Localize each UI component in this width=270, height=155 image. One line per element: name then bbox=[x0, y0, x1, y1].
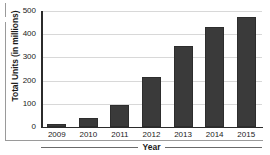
bar-2014 bbox=[205, 27, 224, 127]
x-title-rule-right bbox=[165, 147, 262, 148]
frame-top-tick bbox=[5, 3, 6, 17]
bar-2013 bbox=[174, 46, 193, 127]
frame-left-rule bbox=[5, 22, 6, 141]
y-tick-label: 0 bbox=[8, 123, 36, 131]
bar-2010 bbox=[79, 118, 98, 127]
x-axis-title: Year bbox=[143, 142, 161, 152]
y-tick-label: 300 bbox=[8, 53, 36, 61]
x-axis-title-row: Year bbox=[41, 141, 262, 153]
bar-series bbox=[41, 11, 262, 127]
bar-2011 bbox=[110, 105, 129, 127]
x-tick-label: 2015 bbox=[226, 130, 266, 139]
y-tick-label: 100 bbox=[8, 100, 36, 108]
bar-2012 bbox=[142, 77, 161, 127]
bar-2015 bbox=[237, 17, 256, 127]
bar-chart: Total Units (in millions) 01002003004005… bbox=[0, 0, 270, 155]
y-tick-label: 200 bbox=[8, 77, 36, 85]
bar-2009 bbox=[47, 124, 66, 127]
y-tick-label: 500 bbox=[8, 7, 36, 15]
x-title-rule-left bbox=[41, 147, 138, 148]
y-tick-label: 400 bbox=[8, 30, 36, 38]
